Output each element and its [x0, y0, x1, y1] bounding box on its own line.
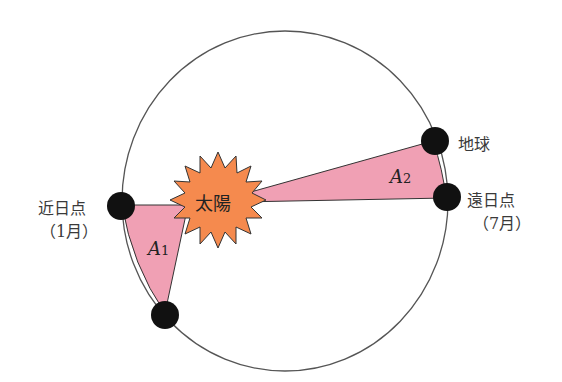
earth-aphelion-dot: [433, 183, 461, 211]
area-a1-letter: A: [148, 238, 161, 259]
earth-label: 地球: [458, 131, 490, 155]
area-a1-subscript: 1: [161, 243, 169, 258]
perihelion-month-label: （1月）: [40, 218, 98, 242]
earth-bottom-dot: [151, 301, 179, 329]
area-a2-label: A2: [390, 166, 411, 187]
aphelion-label: 遠日点: [467, 187, 515, 211]
sun-label: 太陽: [195, 189, 231, 215]
earth-perihelion-dot: [107, 192, 135, 220]
area-a2-subscript: 2: [403, 171, 411, 186]
earth-dot: [421, 127, 449, 155]
aphelion-month-label: （7月）: [473, 210, 531, 234]
perihelion-label: 近日点: [38, 195, 86, 219]
area-a1-label: A1: [148, 238, 169, 259]
area-a2-letter: A: [390, 166, 403, 187]
area-a2-sector: [240, 141, 446, 202]
